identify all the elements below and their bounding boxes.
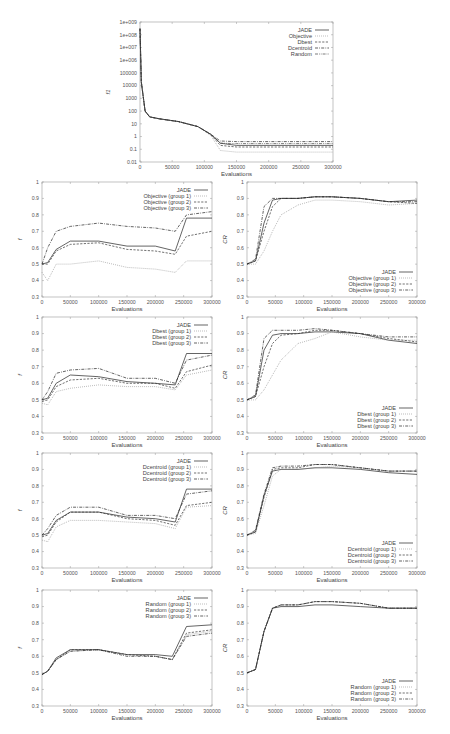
series-line: [247, 332, 417, 400]
x-tick-label: 300000: [203, 299, 220, 305]
legend-entry: Objective (group 3): [348, 287, 396, 293]
y-tick-label: 0.5: [32, 532, 39, 538]
y-tick-label: 0.5: [237, 261, 244, 267]
x-tick-label: 50000: [63, 435, 78, 441]
y-axis-label: CR: [222, 506, 228, 515]
y-tick-label: 0.9: [237, 330, 244, 336]
x-tick-label: 50000: [268, 435, 283, 441]
y-tick-label: 1: [134, 133, 137, 139]
y-tick-label: 0.4: [237, 686, 244, 692]
series-line: [247, 329, 417, 400]
legend-entry: Dbest (group 3): [357, 423, 396, 429]
x-tick-label: 300000: [203, 708, 220, 714]
x-tick-label: 0: [246, 299, 249, 305]
series-line: [42, 231, 212, 264]
y-tick-label: 1: [241, 450, 244, 456]
x-tick-label: 50000: [268, 299, 283, 305]
x-tick-label: 0: [41, 708, 44, 714]
x-tick-label: 150000: [323, 299, 340, 305]
x-tick-label: 200000: [352, 708, 369, 714]
x-tick-label: 250000: [292, 164, 309, 170]
x-tick-label: 50000: [63, 299, 78, 305]
x-axis-label: Evaluations: [316, 442, 347, 448]
y-tick-label: 1: [241, 587, 244, 593]
x-tick-label: 0: [41, 299, 44, 305]
x-tick-label: 150000: [118, 435, 135, 441]
y-tick-label: 0.6: [237, 516, 244, 522]
y-tick-label: 0.4: [237, 277, 244, 283]
series-line: [247, 602, 417, 673]
y-tick-label: 0.7: [32, 499, 39, 505]
x-tick-label: 150000: [323, 708, 340, 714]
y-tick-label: 1: [36, 587, 39, 593]
x-axis-label: Evaluations: [111, 715, 142, 721]
x-tick-label: 150000: [118, 299, 135, 305]
x-tick-label: 300000: [408, 708, 425, 714]
chart-panel-random-f: 0.30.40.50.60.70.80.91050000100000150000…: [17, 587, 221, 721]
x-tick-label: 250000: [175, 570, 192, 576]
x-axis-label: Evaluations: [111, 442, 142, 448]
x-tick-label: 250000: [380, 708, 397, 714]
y-tick-label: 0.3: [32, 294, 39, 300]
series-line: [247, 466, 417, 535]
y-tick-label: 0.9: [32, 330, 39, 336]
x-tick-label: 0: [41, 570, 44, 576]
series-line: [247, 605, 417, 673]
y-tick-label: 1e+006: [120, 57, 138, 63]
x-tick-label: 300000: [203, 435, 220, 441]
y-axis-label: f1: [105, 89, 111, 94]
x-tick-label: 250000: [175, 435, 192, 441]
y-tick-label: 100000: [120, 70, 137, 76]
x-tick-label: 250000: [380, 570, 397, 576]
series-line: [247, 465, 417, 536]
chart-panel-random-cr: 0.30.40.50.60.70.80.91050000100000150000…: [222, 587, 426, 721]
x-tick-label: 200000: [147, 570, 164, 576]
y-tick-label: 10000: [123, 82, 138, 88]
y-tick-label: 1: [36, 314, 39, 320]
x-axis-label: Evaluations: [316, 577, 347, 583]
y-tick-label: 0.9: [32, 195, 39, 201]
y-tick-label: 0.3: [237, 430, 244, 436]
series-line: [42, 261, 212, 281]
y-tick-label: 0.4: [32, 277, 39, 283]
x-tick-label: 100000: [90, 708, 107, 714]
x-tick-label: 250000: [175, 299, 192, 305]
x-axis-label: Evaluations: [316, 306, 347, 312]
y-tick-label: 0.1: [130, 146, 137, 152]
y-tick-label: 0.3: [32, 430, 39, 436]
y-tick-label: 0.4: [32, 686, 39, 692]
y-tick-label: 0.7: [237, 364, 244, 370]
y-tick-label: 0.4: [32, 413, 39, 419]
series-line: [42, 355, 212, 400]
legend-entry: Dbest (group 3): [152, 340, 191, 346]
y-tick-label: 0.8: [32, 347, 39, 353]
x-tick-label: 0: [246, 570, 249, 576]
x-tick-label: 150000: [323, 570, 340, 576]
y-tick-label: 0.8: [237, 212, 244, 218]
series-line: [42, 354, 212, 400]
y-tick-label: 0.5: [237, 397, 244, 403]
y-tick-label: 0.5: [32, 670, 39, 676]
x-tick-label: 100000: [90, 570, 107, 576]
series-line: [247, 602, 417, 673]
x-tick-label: 200000: [352, 570, 369, 576]
x-axis-label: Evaluations: [221, 171, 252, 177]
x-tick-label: 200000: [147, 708, 164, 714]
legend-entry: Random: [291, 51, 312, 57]
y-tick-label: 0.6: [237, 653, 244, 659]
y-tick-label: 0.9: [237, 195, 244, 201]
series-line: [42, 212, 212, 265]
series-line: [247, 602, 417, 673]
x-tick-label: 150000: [323, 435, 340, 441]
x-tick-label: 0: [246, 435, 249, 441]
legend-entry: Random (group 3): [146, 613, 192, 619]
y-tick-label: 0.3: [237, 565, 244, 571]
y-axis-label: f: [17, 508, 23, 511]
y-tick-label: 0.4: [237, 413, 244, 419]
y-axis-label: CR: [222, 235, 228, 244]
y-tick-label: 0.4: [32, 548, 39, 554]
x-tick-label: 150000: [118, 570, 135, 576]
x-tick-label: 200000: [352, 299, 369, 305]
y-tick-label: 0.3: [32, 703, 39, 709]
y-tick-label: 1: [36, 179, 39, 185]
